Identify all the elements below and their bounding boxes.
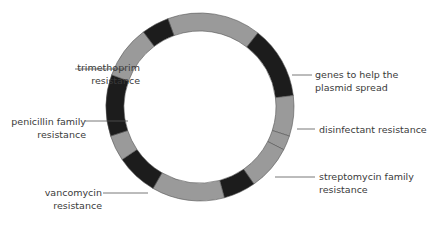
ring-segment-light	[153, 173, 224, 201]
ring-segment-light	[272, 96, 294, 137]
ring-segment-dark	[247, 33, 294, 98]
label-line-2: resistance	[77, 74, 140, 87]
label-line-2: plasmid spread	[315, 81, 398, 94]
ring-segment-light	[168, 13, 258, 47]
label-line-2: resistance	[45, 199, 102, 212]
label-disinfectant-resistance: disinfectant resistance	[319, 123, 427, 136]
label-line-2: resistance	[319, 183, 414, 196]
label-line-1: trimethoprim	[77, 61, 140, 74]
label-streptomycin-family-resistance: streptomycin family resistance	[319, 170, 414, 196]
label-line-1: genes to help the	[315, 68, 398, 81]
label-vancomycin-resistance: vancomycin resistance	[45, 186, 102, 212]
label-line-1: penicillin family	[11, 115, 86, 128]
label-line-1: disinfectant resistance	[319, 123, 427, 136]
label-genes-plasmid-spread: genes to help the plasmid spread	[315, 68, 398, 94]
label-line-1: vancomycin	[45, 186, 102, 199]
label-penicillin-family-resistance: penicillin family resistance	[11, 115, 86, 141]
label-line-1: streptomycin family	[319, 170, 414, 183]
label-trimethoprim-resistance: trimethoprim resistance	[77, 61, 140, 87]
label-line-2: resistance	[11, 128, 86, 141]
